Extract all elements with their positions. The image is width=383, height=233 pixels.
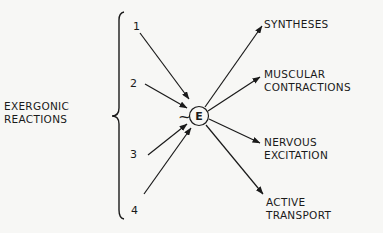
input-label-4: 4: [131, 204, 138, 217]
input-label-3: 3: [130, 148, 137, 161]
input-label-1: 1: [133, 20, 140, 33]
output-label-muscular: MUSCULAR: [264, 68, 325, 80]
energy-node-letter: E: [195, 110, 203, 123]
energy-diagram: EXERGONIC REACTIONS 1 2 3 4 ~ E SYNTHESE…: [0, 0, 383, 233]
output-label-nervous: NERVOUS: [264, 136, 317, 148]
input-label-2: 2: [130, 77, 137, 90]
input-arrow-1: [140, 33, 189, 99]
output-label-syntheses: SYNTHESES: [264, 18, 329, 30]
output-label-contractions: CONTRACTIONS: [264, 81, 351, 93]
output-arrow-2: [208, 77, 260, 111]
output-label-excitation: EXCITATION: [264, 149, 328, 161]
output-arrow-4: [206, 125, 263, 194]
output-label-active: ACTIVE: [266, 196, 305, 208]
group-label-line-1: EXERGONIC: [4, 100, 69, 112]
output-arrow-3: [209, 119, 260, 143]
input-arrow-4: [144, 128, 191, 194]
group-label-line-2: REACTIONS: [4, 113, 67, 125]
input-arrow-3: [148, 124, 187, 155]
curly-brace: [112, 12, 124, 219]
output-label-transport: TRANSPORT: [265, 209, 332, 221]
